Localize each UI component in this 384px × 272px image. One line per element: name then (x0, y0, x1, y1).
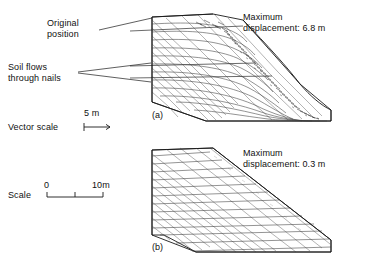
leader-original-position (99, 18, 152, 30)
panel-a-caption: (a) (152, 110, 163, 120)
scale-max-label: 10m (92, 180, 110, 191)
leader-soil-flows-lower (78, 73, 151, 82)
panel-b-caption: (b) (152, 242, 163, 252)
figure-canvas: (a) (0, 0, 384, 272)
panel-b-max-displacement-line1: Maximum (243, 148, 283, 159)
vector-scale-value: 5 m (84, 108, 99, 119)
vector-scale-group (84, 123, 110, 131)
scale-label: Scale (8, 190, 31, 201)
annotation-soil-flows-through-nails: Soil flows through nails (8, 62, 61, 84)
vector-scale-label: Vector scale (8, 122, 58, 133)
scale-zero-label: 0 (44, 180, 49, 191)
panel-b-max-displacement-line2: displacement: 0.3 m (243, 159, 325, 170)
scale-bar-group (47, 192, 103, 197)
panel-a-nail-lines (152, 23, 327, 121)
leader-soil-flows-upper (78, 63, 151, 72)
annotation-original-position: Original position (47, 18, 79, 40)
panel-a-reference-line-lower (130, 76, 272, 78)
soil-nail-slope-figure: (a) (0, 0, 384, 272)
panel-a-max-displacement-line2: displacement: 6.8 m (243, 23, 325, 34)
panel-a-max-displacement-line1: Maximum (243, 12, 283, 23)
